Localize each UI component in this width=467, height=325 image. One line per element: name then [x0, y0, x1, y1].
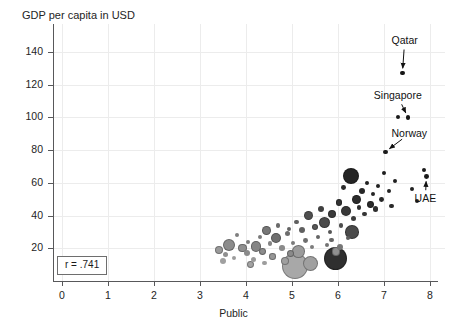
y-axis-tick-label: 80	[13, 143, 43, 155]
x-axis-tick-label: 1	[98, 289, 118, 301]
annotation-label-qatar: Qatar	[392, 34, 418, 46]
x-axis-tick	[384, 281, 385, 286]
data-point-bubble	[379, 197, 384, 202]
x-axis-tick-label: 3	[190, 289, 210, 301]
data-point-bubble	[400, 71, 404, 75]
data-point-bubble	[262, 261, 266, 265]
x-axis-tick	[430, 281, 431, 286]
y-axis-tick-label: 140	[13, 45, 43, 57]
data-point-bubble	[357, 205, 361, 209]
data-point-bubble	[424, 174, 429, 179]
y-axis-tick	[48, 117, 53, 118]
data-point-bubble	[336, 199, 342, 205]
y-axis-tick-label: 40	[13, 209, 43, 221]
data-point-bubble	[269, 253, 275, 259]
y-axis-tick-label: 60	[13, 176, 43, 188]
data-point-bubble	[373, 206, 378, 211]
data-point-bubble	[287, 227, 291, 231]
data-point-bubble	[303, 256, 318, 271]
x-axis-tick	[108, 281, 109, 286]
data-point-bubble	[406, 115, 410, 119]
annotation-label-singapore: Singapore	[374, 89, 422, 101]
data-point-bubble	[383, 150, 387, 154]
y-axis-tick-label: 120	[13, 78, 43, 90]
data-point-bubble	[319, 217, 330, 228]
annotation-label-uae: UAE	[415, 192, 437, 204]
data-point-bubble	[292, 245, 305, 258]
gridline-vertical	[430, 24, 431, 281]
chart-title: GDP per capita in USD	[22, 9, 135, 21]
chart-canvas: GDP per capita in USD 204060801001201400…	[0, 0, 467, 325]
data-point-bubble	[294, 220, 298, 224]
x-axis-tick	[200, 281, 201, 286]
x-axis-tick-label: 7	[374, 289, 394, 301]
gridline-horizontal	[53, 216, 445, 217]
data-point-bubble	[268, 241, 273, 246]
data-point-bubble	[276, 223, 280, 227]
y-axis-tick-label: 20	[13, 241, 43, 253]
x-axis-tick-label: 5	[282, 289, 302, 301]
data-point-bubble	[279, 245, 285, 251]
x-axis-tick-label: 2	[144, 289, 164, 301]
gridline-vertical	[62, 24, 63, 281]
data-point-bubble	[262, 226, 271, 235]
gridline-vertical	[108, 24, 109, 281]
data-point-bubble	[258, 235, 262, 239]
y-axis-tick-label: 100	[13, 110, 43, 122]
y-axis-tick	[48, 216, 53, 217]
x-axis-tick-label: 8	[420, 289, 440, 301]
y-axis-tick	[48, 150, 53, 151]
gridline-vertical	[154, 24, 155, 281]
data-point-bubble	[287, 250, 294, 257]
y-axis-tick	[48, 183, 53, 184]
y-axis-tick	[48, 85, 53, 86]
x-axis-tick	[62, 281, 63, 286]
data-point-bubble	[341, 206, 351, 216]
x-axis-tick	[292, 281, 293, 286]
x-axis-tick-label: 4	[236, 289, 256, 301]
data-point-bubble	[303, 238, 308, 243]
x-axis-tick-label: 0	[52, 289, 72, 301]
gridline-horizontal	[53, 52, 445, 53]
gridline-vertical	[338, 24, 339, 281]
gridline-horizontal	[53, 248, 445, 249]
gridline-vertical	[200, 24, 201, 281]
data-point-bubble	[223, 239, 235, 251]
x-axis-tick-label: 6	[328, 289, 348, 301]
annotation-label-norway: Norway	[392, 127, 428, 139]
correlation-badge: r = .741	[57, 256, 107, 275]
y-axis-tick	[48, 248, 53, 249]
data-point-bubble	[247, 261, 254, 268]
gridline-horizontal	[53, 85, 445, 86]
x-axis-tick	[154, 281, 155, 286]
data-point-bubble	[316, 235, 320, 239]
y-axis-line	[53, 24, 54, 281]
data-point-bubble	[352, 195, 361, 204]
data-point-bubble	[318, 206, 324, 212]
data-point-bubble	[422, 168, 426, 172]
data-point-bubble	[387, 189, 391, 193]
data-point-bubble	[359, 188, 365, 194]
data-point-bubble	[337, 244, 343, 250]
data-point-bubble	[259, 248, 266, 255]
x-axis-tick	[338, 281, 339, 286]
data-point-bubble	[339, 223, 343, 227]
y-axis-tick	[48, 52, 53, 53]
data-point-bubble	[281, 257, 289, 265]
data-point-bubble	[310, 245, 314, 249]
gridline-horizontal	[53, 183, 445, 184]
data-point-bubble	[389, 204, 393, 208]
gridline-horizontal	[53, 117, 445, 118]
x-axis-title: Public	[0, 307, 467, 319]
data-point-bubble	[329, 238, 333, 242]
x-axis-tick	[246, 281, 247, 286]
data-point-bubble	[328, 230, 332, 234]
